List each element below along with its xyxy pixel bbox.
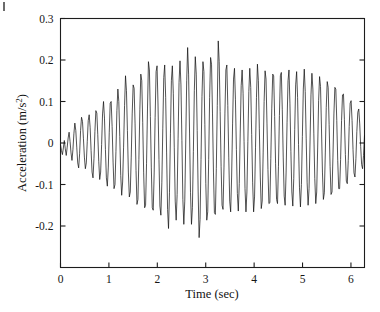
x-tick-label: 0 — [58, 273, 64, 285]
figure-container: 0123456 -0.2-0.100.10.20.3 Time (sec) Ac… — [0, 0, 380, 312]
data-series-line — [61, 41, 365, 238]
y-axis-tick-labels: -0.2-0.100.10.20.3 — [35, 13, 53, 233]
scan-artifact — [3, 2, 5, 11]
y-axis-label-group: Acceleration (m/s2) — [14, 94, 29, 192]
x-tick-label: 1 — [106, 273, 112, 285]
y-tick-label: 0 — [48, 137, 54, 149]
acceleration-time-series-chart: 0123456 -0.2-0.100.10.20.3 Time (sec) Ac… — [0, 0, 380, 312]
x-tick-label: 3 — [203, 273, 209, 285]
x-tick-label: 5 — [300, 273, 306, 285]
y-tick-label: 0.2 — [39, 54, 54, 66]
y-axis-label: Acceleration (m/s2) — [14, 94, 29, 192]
y-tick-label: -0.2 — [35, 220, 53, 232]
plot-frame — [61, 19, 365, 268]
y-tick-label: -0.1 — [35, 179, 53, 191]
x-tick-label: 2 — [154, 273, 160, 285]
x-tick-label: 4 — [251, 273, 257, 285]
y-tick-label: 0.1 — [39, 96, 54, 108]
x-axis-tick-labels: 0123456 — [58, 273, 354, 285]
x-tick-label: 6 — [348, 273, 354, 285]
x-axis-label: Time (sec) — [185, 287, 238, 301]
x-axis-ticks — [61, 263, 351, 268]
y-tick-label: 0.3 — [39, 13, 54, 25]
plot-box-border — [61, 19, 365, 268]
